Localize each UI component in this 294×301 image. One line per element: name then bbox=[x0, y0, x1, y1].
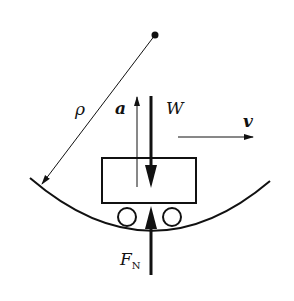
velocity-label: v bbox=[243, 111, 254, 131]
wheel-right bbox=[163, 208, 181, 226]
weight-label: W bbox=[166, 98, 185, 118]
normal-force-label: FN bbox=[119, 249, 141, 271]
vehicle-body bbox=[102, 158, 196, 203]
acceleration-label: a bbox=[115, 98, 126, 118]
radius-label: ρ bbox=[74, 99, 85, 119]
normal-force-arrow bbox=[145, 206, 157, 275]
wheel-left bbox=[118, 208, 136, 226]
free-body-diagram: ρ a W v FN bbox=[0, 0, 294, 301]
